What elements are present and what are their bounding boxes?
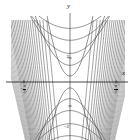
dense-branches-left — [0, 20, 59, 140]
level-curve-plot — [0, 0, 136, 140]
level-curve — [112, 20, 136, 140]
y-axis-label: y — [67, 3, 70, 10]
level-curve — [7, 20, 30, 140]
x-tick-label-negative-pi-over-2: −π2 — [14, 84, 32, 95]
x-tick-label-pi-over-2: π2 — [109, 84, 123, 95]
figure-container: x y −π2 π2 2 −2 — [0, 0, 136, 140]
fraction-denominator: 2 — [114, 90, 117, 95]
curve-group — [0, 8, 136, 140]
y-tick-label-positive-2: 2 — [62, 54, 69, 59]
y-tick-label-negative-2: −2 — [60, 124, 69, 129]
x-axis-label: x — [122, 70, 125, 77]
level-curve — [109, 20, 132, 140]
fraction-pi-over-2: π2 — [23, 84, 26, 95]
fraction-pi-over-2: π2 — [114, 84, 117, 95]
dense-branches-right — [81, 20, 136, 140]
fraction-denominator: 2 — [23, 90, 26, 95]
